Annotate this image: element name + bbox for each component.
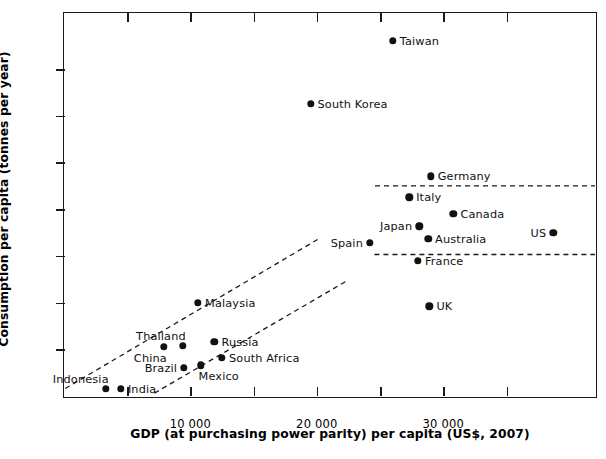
data-point-label: South Korea <box>318 98 388 111</box>
data-point <box>416 223 423 230</box>
y-tick-minor <box>56 69 65 71</box>
x-tick-label: 30 000 <box>423 417 464 431</box>
data-point-label: Thailand <box>136 329 186 342</box>
data-point <box>366 239 373 246</box>
scatter-chart-figure: Consumption per capita (tonnes per year)… <box>0 0 606 459</box>
data-point <box>117 385 124 392</box>
upper-diagonal-band <box>65 238 320 389</box>
data-point <box>389 37 396 44</box>
x-tick-top-minor <box>507 13 509 22</box>
data-point-label: Australia <box>435 233 486 246</box>
data-point <box>307 100 314 107</box>
x-tick-label: 10 000 <box>170 417 211 431</box>
y-tick-minor <box>56 349 65 351</box>
data-point-label: US <box>531 226 547 239</box>
x-tick-major <box>317 387 319 396</box>
data-point <box>218 354 225 361</box>
data-point <box>211 338 218 345</box>
data-point <box>102 385 109 392</box>
y-tick-minor <box>56 256 65 258</box>
x-tick-major <box>190 387 192 396</box>
data-point <box>424 235 431 242</box>
data-point <box>197 361 204 368</box>
x-tick-top-major <box>190 13 192 22</box>
data-point-label: Mexico <box>199 370 239 383</box>
data-point-label: UK <box>436 300 452 313</box>
x-tick-top-minor <box>380 13 382 22</box>
plot-area: 204060 10 00020 00030 000 TaiwanSouth Ko… <box>63 12 597 398</box>
data-point-label: Indonesia <box>53 372 109 385</box>
data-point-label: Spain <box>331 236 363 249</box>
data-point <box>414 257 421 264</box>
x-tick-top-minor <box>127 13 129 22</box>
data-point-label: Russia <box>221 335 258 348</box>
data-point-label: Italy <box>416 191 441 204</box>
x-tick-minor <box>507 387 509 396</box>
data-point <box>427 173 434 180</box>
y-tick-major <box>56 209 65 211</box>
data-point-label: Germany <box>438 170 491 183</box>
data-point <box>550 229 557 236</box>
y-tick-minor <box>56 162 65 164</box>
y-tick-major <box>56 116 65 118</box>
data-point <box>160 343 167 350</box>
data-point <box>426 303 433 310</box>
x-tick-top-minor <box>254 13 256 22</box>
y-axis-title: Consumption per capita (tonnes per year) <box>0 51 11 346</box>
data-point-label: Malaysia <box>205 296 256 309</box>
data-point <box>194 299 201 306</box>
x-tick-top-major <box>317 13 319 22</box>
data-point-label: Canada <box>460 207 504 220</box>
data-point-label: South Africa <box>229 351 299 364</box>
x-tick-label: 20 000 <box>296 417 337 431</box>
data-point <box>180 364 187 371</box>
data-point-label: France <box>425 254 463 267</box>
x-tick-top-major <box>443 13 445 22</box>
data-point <box>179 342 186 349</box>
data-point-label: Brazil <box>145 361 177 374</box>
x-tick-major <box>443 387 445 396</box>
data-point-label: India <box>128 382 156 395</box>
y-tick-major <box>56 303 65 305</box>
data-point-label: Japan <box>380 220 412 233</box>
data-point-label: Taiwan <box>400 35 439 48</box>
data-point <box>405 194 412 201</box>
x-tick-minor <box>254 387 256 396</box>
data-point <box>450 210 457 217</box>
x-tick-minor <box>380 387 382 396</box>
